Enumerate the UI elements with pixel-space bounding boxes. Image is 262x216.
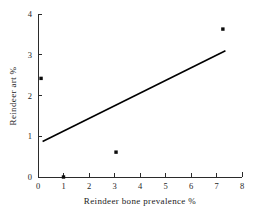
y-tick-label: 2 [28,91,32,101]
data-point [39,77,42,80]
chart-figure: 01234 012345678 Reindeer bone prevalence… [0,0,262,216]
data-point [62,175,65,178]
x-tick-label: 1 [61,181,65,191]
x-tick-label: 6 [189,181,193,191]
x-tick-label: 8 [240,181,244,191]
y-tick-label: 3 [28,50,32,60]
x-tick-label: 4 [138,181,143,191]
regression-line [43,51,226,142]
y-tick-label: 0 [28,172,32,182]
y-axis-ticks: 01234 [28,9,42,182]
x-tick-label: 0 [36,181,40,191]
y-tick-label: 1 [28,131,32,141]
x-axis-title: Reindeer bone prevalence % [84,196,196,206]
x-tick-label: 7 [214,181,218,191]
x-axis-ticks: 012345678 [36,173,244,191]
y-tick-label: 4 [28,9,33,19]
x-tick-label: 3 [112,181,116,191]
x-tick-label: 2 [87,181,91,191]
data-point [221,27,224,30]
y-axis-title: Reindeer art % [8,66,18,125]
data-point [114,150,117,153]
x-tick-label: 5 [163,181,167,191]
data-point-group [39,27,224,178]
scatter-plot: 01234 012345678 Reindeer bone prevalence… [0,0,262,216]
